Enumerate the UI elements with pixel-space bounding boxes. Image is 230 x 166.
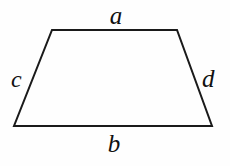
trapezoid-figure: a b c d bbox=[0, 0, 230, 166]
side-label-b: b bbox=[0, 131, 229, 156]
side-label-a: a bbox=[1, 3, 230, 28]
side-label-d: d bbox=[202, 66, 215, 91]
side-label-c: c bbox=[11, 67, 22, 91]
trapezoid-outline bbox=[14, 30, 212, 126]
